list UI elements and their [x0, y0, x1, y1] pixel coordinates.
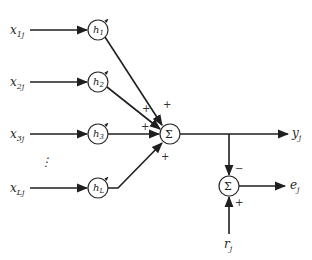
weight-node-hL: hL	[88, 177, 108, 198]
weight-node-h1: h1	[88, 19, 108, 40]
svg-text:Σ: Σ	[224, 180, 232, 193]
error-summer: Σ	[219, 176, 239, 196]
error-label-e: ej	[290, 178, 300, 194]
sign-plus-4: +	[161, 151, 169, 162]
input-label-xL: xLj	[10, 181, 25, 197]
sign-minus: −	[235, 163, 243, 174]
reference-label-r: rj	[224, 237, 233, 253]
sign-plus-3: +	[141, 121, 149, 132]
sign-plus-ref: +	[235, 197, 243, 208]
input-label-x3: x3j	[10, 127, 25, 143]
weight-node-h3: h3	[88, 123, 108, 144]
wire-h2-sum	[107, 87, 160, 129]
svg-text:Σ: Σ	[165, 128, 173, 141]
wire-hL-sum	[108, 143, 162, 188]
output-label-y: yj	[291, 126, 302, 142]
weight-node-h2: h2	[88, 71, 108, 92]
adaptive-combiner-diagram: x1j x2j x3j xLj ⋮ h1 h2 h3 hL + + + + Σ	[0, 0, 312, 260]
sign-plus-1: +	[142, 103, 150, 114]
input-label-x2: x2j	[10, 75, 25, 91]
sign-plus-2: +	[163, 99, 171, 110]
main-summer: Σ	[160, 124, 180, 144]
wire-h1-sum	[105, 37, 162, 125]
ellipsis: ⋮	[40, 155, 52, 169]
input-label-x1: x1j	[10, 23, 25, 39]
